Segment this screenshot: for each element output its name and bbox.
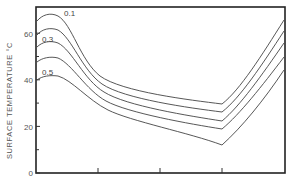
y-tick-20: 20 bbox=[24, 123, 33, 132]
curve-2 bbox=[37, 29, 284, 112]
y-tick-40: 40 bbox=[24, 76, 33, 85]
curve-0.3 bbox=[37, 42, 284, 121]
curve-0.5 bbox=[37, 70, 284, 145]
y-tick-60: 60 bbox=[24, 30, 33, 39]
temperature-chart: 0 20 40 60 0.1 0.3 0.5 bbox=[0, 0, 290, 185]
curves bbox=[37, 14, 284, 145]
y-axis-label: SURFACE TEMPERATURE °C bbox=[5, 36, 14, 166]
curve-4 bbox=[37, 57, 284, 129]
curve-label-0.1: 0.1 bbox=[64, 9, 76, 18]
plot-frame bbox=[36, 7, 285, 173]
curve-label-0.5: 0.5 bbox=[42, 68, 54, 77]
curve-label-0.3: 0.3 bbox=[42, 35, 54, 44]
y-tick-0: 0 bbox=[29, 169, 34, 178]
